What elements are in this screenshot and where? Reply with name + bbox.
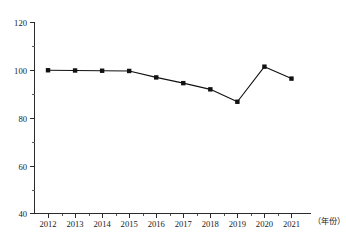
x-tick-label-2013: 2013 <box>66 219 83 229</box>
data-point-2015 <box>127 69 131 73</box>
data-point-2012 <box>46 68 50 72</box>
data-point-2014 <box>100 69 104 73</box>
y-tick-label-80: 80 <box>18 114 27 124</box>
x-tick-label-2019: 2019 <box>229 219 246 229</box>
data-point-2016 <box>154 75 158 79</box>
y-tick-label-120: 120 <box>14 18 27 28</box>
y-tick-label-60: 60 <box>18 162 27 172</box>
line-chart: 120 100 80 60 40 20122013201420152016201… <box>0 0 346 246</box>
x-tick-label-2017: 2017 <box>175 219 193 229</box>
x-tick-label-2012: 2012 <box>39 219 56 229</box>
y-tick-label-40: 40 <box>18 209 27 219</box>
data-point-2019 <box>235 100 239 104</box>
chart-container: 120 100 80 60 40 20122013201420152016201… <box>0 0 346 246</box>
chart-background <box>0 0 346 246</box>
data-point-2020 <box>262 64 266 68</box>
y-tick-label-100: 100 <box>14 66 27 76</box>
x-tick-label-2016: 2016 <box>148 219 166 229</box>
data-point-2021 <box>289 76 293 80</box>
x-tick-label-2021: 2021 <box>283 219 300 229</box>
x-axis-unit-label: （年份） <box>313 216 345 226</box>
data-point-2017 <box>181 81 185 85</box>
x-tick-label-2020: 2020 <box>256 219 273 229</box>
data-point-2013 <box>73 68 77 72</box>
x-tick-label-2014: 2014 <box>94 219 112 229</box>
data-point-2018 <box>208 87 212 91</box>
x-tick-label-2018: 2018 <box>202 219 219 229</box>
x-tick-label-2015: 2015 <box>121 219 138 229</box>
